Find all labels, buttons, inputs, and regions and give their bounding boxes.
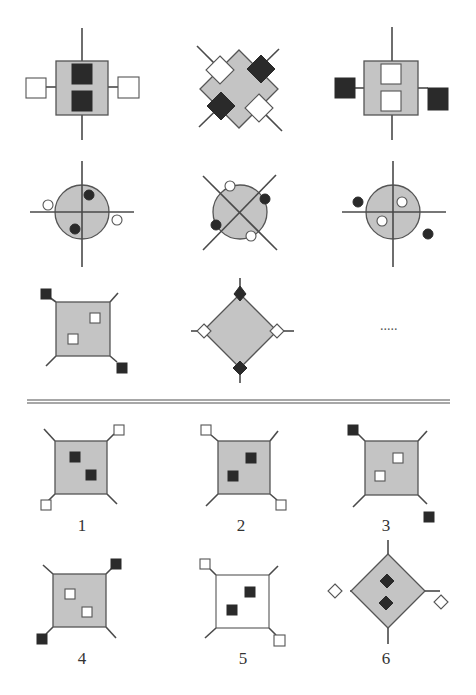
option-4-label[interactable]: 4: [67, 649, 97, 669]
option-6-label[interactable]: 6: [371, 649, 401, 669]
option-2-figure[interactable]: [201, 425, 286, 510]
matrix-cell-r3c2: [191, 278, 294, 383]
option-5-label[interactable]: 5: [228, 649, 258, 669]
matrix-cell-r3c1: [41, 289, 127, 373]
matrix-cell-r2c2: [203, 175, 277, 250]
puzzle-canvas: .g { fill: #c4c4c4; stroke: #555; stroke…: [0, 0, 476, 695]
option-2-label[interactable]: 2: [226, 516, 256, 536]
section-divider: [27, 400, 450, 403]
option-3-figure[interactable]: [348, 425, 434, 522]
matrix-cell-r2c3: [342, 161, 446, 267]
matrix-cell-r1c2: [197, 46, 282, 131]
option-4-figure[interactable]: [37, 559, 121, 644]
missing-cell-placeholder: .....: [380, 318, 398, 334]
option-6-figure[interactable]: [328, 540, 448, 644]
option-3-label[interactable]: 3: [371, 516, 401, 536]
matrix-cell-r2c1: [30, 161, 134, 267]
option-1-label[interactable]: 1: [67, 516, 97, 536]
option-1-figure[interactable]: [41, 425, 124, 510]
matrix-cell-r1c3: [335, 27, 448, 140]
matrix-cell-r1c1: [26, 28, 139, 140]
option-5-figure[interactable]: [200, 559, 285, 646]
